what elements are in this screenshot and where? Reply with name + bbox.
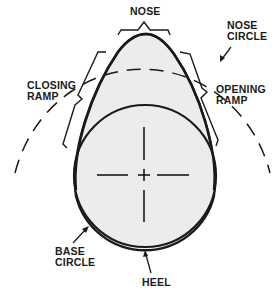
base-circle-arrow: [73, 226, 89, 243]
base-circle-label: BASE CIRCLE: [55, 246, 95, 268]
base-circle: [74, 105, 216, 247]
heel-arrow: [143, 250, 151, 273]
closing-ramp-label-line2: RAMP: [27, 91, 76, 102]
heel-label-line1: HEEL: [142, 277, 171, 288]
opening-ramp-label-line2: RAMP: [216, 95, 266, 106]
base-circle-label-line2: CIRCLE: [55, 257, 95, 268]
cam-lobe-diagram: [0, 0, 279, 292]
nose-circle-label-line2: CIRCLE: [227, 31, 267, 42]
closing-ramp-label: CLOSING RAMP: [27, 80, 76, 102]
nose-label-line1: NOSE: [130, 6, 161, 17]
heel-label: HEEL: [142, 277, 171, 288]
nose-label: NOSE: [130, 6, 161, 17]
opening-ramp-label: OPENING RAMP: [216, 84, 266, 106]
nose-circle-label: NOSE CIRCLE: [227, 20, 267, 42]
nose-circle-arrow: [220, 47, 231, 62]
